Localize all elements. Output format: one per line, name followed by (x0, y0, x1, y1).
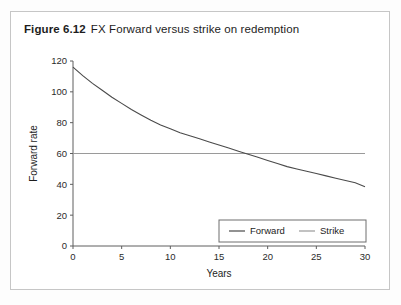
x-tick-label: 25 (311, 251, 322, 262)
page-background: Figure 6.12FX Forward versus strike on r… (0, 0, 401, 305)
x-tick-label: 30 (360, 251, 371, 262)
series-line-forward (73, 67, 365, 186)
y-tick-label: 60 (56, 148, 67, 159)
y-tick-label: 20 (56, 210, 67, 221)
line-chart: 020406080100120051015202530YearsForward … (11, 12, 391, 291)
y-tick-label: 40 (56, 179, 67, 190)
x-axis-title: Years (206, 268, 231, 279)
y-tick-label: 120 (51, 55, 67, 66)
legend-label-forward: Forward (250, 225, 285, 236)
x-tick-label: 15 (214, 251, 225, 262)
y-tick-label: 100 (51, 86, 67, 97)
x-tick-label: 10 (165, 251, 176, 262)
y-tick-label: 80 (56, 117, 67, 128)
y-tick-label: 0 (62, 240, 67, 251)
chart-plot-area: 020406080100120051015202530YearsForward … (11, 12, 391, 291)
figure-card: Figure 6.12FX Forward versus strike on r… (10, 11, 390, 290)
legend-label-strike: Strike (320, 225, 344, 236)
x-tick-label: 5 (119, 251, 124, 262)
x-tick-label: 0 (70, 251, 75, 262)
y-axis-title: Forward rate (28, 125, 39, 182)
x-tick-label: 20 (262, 251, 273, 262)
